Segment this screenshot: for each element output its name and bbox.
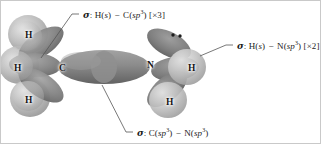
atom-label-h-nitrogen-right: H: [188, 64, 195, 74]
colon-cn: :: [144, 128, 147, 138]
sigma-glyph-ch: σ: [83, 10, 90, 20]
ch-second: C(: [123, 10, 132, 20]
nh-multiplier: [×2]: [304, 41, 320, 51]
ch-dash: −: [114, 10, 121, 20]
orbital-overlap-figure: C N H H H H H σ: H(s) − C(sp3) [×3] σ: H…: [1, 1, 320, 143]
atom-label-h-carbon-top: H: [25, 31, 32, 41]
ch-first: H(: [95, 10, 105, 20]
nh-second: N(: [277, 41, 287, 51]
nh-dash: −: [268, 41, 275, 51]
cn-first: C(: [149, 128, 158, 138]
label-sigma-hs-nsp3: σ: H(s) − N(sp3) [×2]: [237, 40, 320, 51]
nh-second-close: ): [298, 41, 301, 51]
cn-sigma-bond-lobe: [58, 50, 150, 84]
ch-first-close: ): [108, 10, 111, 20]
orbital-rendering: [1, 1, 321, 144]
sigma-glyph-nh: σ: [237, 41, 244, 51]
cn-second: N(: [184, 128, 194, 138]
cn-first-italic: sp: [158, 128, 166, 138]
sigma-glyph-cn: σ: [137, 128, 144, 138]
leader-cn-line: [102, 85, 126, 132]
cn-dash: −: [175, 128, 182, 138]
atom-label-c: C: [59, 64, 66, 74]
atom-label-n: N: [147, 61, 154, 71]
label-sigma-hs-csp3: σ: H(s) − C(sp3) [×3]: [83, 9, 165, 20]
label-sigma-csp3-nsp3: σ: C(sp3) − N(sp3): [137, 127, 208, 138]
figure-panel: C N H H H H H σ: H(s) − C(sp3) [×3] σ: H…: [0, 0, 321, 144]
colon-nh: :: [244, 41, 247, 51]
cn-first-close: ): [169, 128, 172, 138]
ch-second-close: ): [144, 10, 147, 20]
cn-second-close: ): [205, 128, 208, 138]
nh-second-italic: sp: [287, 41, 295, 51]
atom-label-h-carbon-middle: H: [14, 64, 21, 74]
ch-multiplier: [×3]: [149, 10, 165, 20]
cn-second-italic: sp: [194, 128, 202, 138]
atom-label-h-nitrogen-bottom: H: [166, 98, 173, 108]
atom-label-h-carbon-bottom: H: [25, 96, 32, 106]
colon-ch: :: [90, 10, 93, 20]
nh-first-close: ): [262, 41, 265, 51]
nh-first: H(: [249, 41, 259, 51]
leader-nh-line: [200, 45, 226, 56]
